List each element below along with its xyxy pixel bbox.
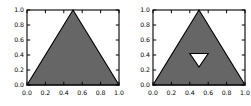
xtick-label: 1.0 — [240, 89, 250, 96]
xtick-label: 0.4 — [185, 89, 195, 96]
ytick-label: 0.8 — [140, 21, 150, 28]
xtick-label: 0.2 — [166, 89, 176, 96]
ytick-label: 1.0 — [140, 6, 150, 13]
ytick-label: 0.6 — [14, 36, 24, 43]
xtick-label: 0.0 — [22, 89, 32, 96]
chart-panel-right: 0.00.20.40.60.81.00.00.20.40.60.81.0 — [125, 0, 250, 106]
ytick-label: 0.2 — [140, 66, 150, 73]
xtick-label: 0.6 — [203, 89, 213, 96]
chart-panel-left: 0.00.20.40.60.81.00.00.20.40.60.81.0 — [0, 0, 125, 106]
axes-left: 0.00.20.40.60.81.00.00.20.40.60.81.0 — [0, 0, 125, 106]
plot-area-right — [153, 10, 245, 85]
ytick-label: 0.2 — [14, 66, 24, 73]
xtick-label: 0.4 — [59, 89, 69, 96]
figure-canvas: 0.00.20.40.60.81.00.00.20.40.60.81.0 0.0… — [0, 0, 251, 106]
xtick-label: 0.2 — [40, 89, 50, 96]
ytick-label: 0.6 — [140, 36, 150, 43]
xtick-label: 0.6 — [77, 89, 87, 96]
ytick-label: 0.0 — [14, 81, 24, 88]
ytick-label: 0.4 — [140, 51, 150, 58]
ytick-label: 0.0 — [140, 81, 150, 88]
xtick-label: 1.0 — [114, 89, 124, 96]
xtick-label: 0.8 — [222, 89, 232, 96]
plot-area-left — [27, 10, 119, 85]
xtick-label: 0.8 — [96, 89, 106, 96]
axes-right: 0.00.20.40.60.81.00.00.20.40.60.81.0 — [125, 0, 251, 106]
ytick-label: 0.4 — [14, 51, 24, 58]
ytick-label: 1.0 — [14, 6, 24, 13]
ytick-label: 0.8 — [14, 21, 24, 28]
xtick-label: 0.0 — [148, 89, 158, 96]
